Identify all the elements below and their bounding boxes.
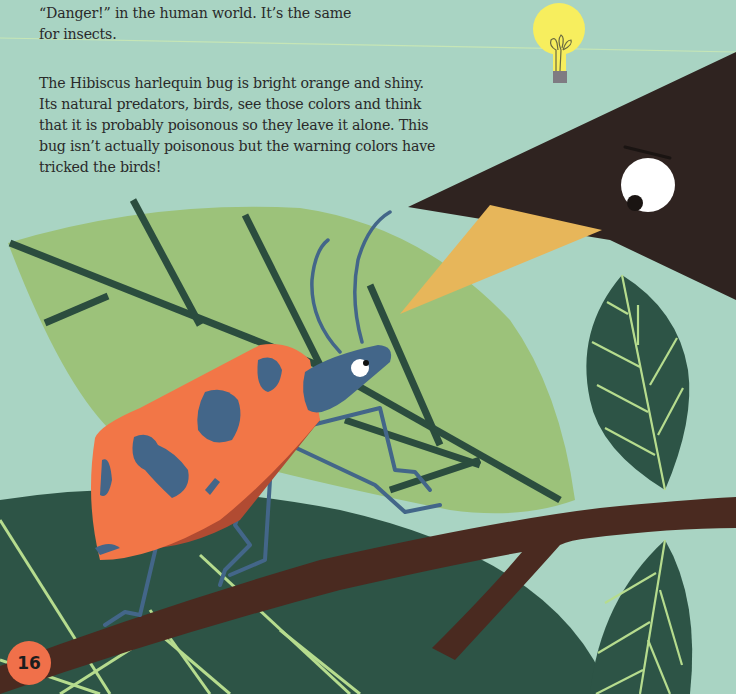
body-line: bug isn’t actually poisonous but the war… xyxy=(39,136,509,157)
leaf-right-lower xyxy=(590,540,692,694)
book-page: “Danger!” in the human world. It’s the s… xyxy=(0,0,736,694)
page-number-badge: 16 xyxy=(7,641,51,685)
intro-line: “Danger!” in the human world. It’s the s… xyxy=(39,3,379,24)
intro-line: for insects. xyxy=(39,24,379,45)
bird-pupil xyxy=(627,195,643,211)
bug-pupil xyxy=(363,360,369,366)
lightbulb-icon xyxy=(533,3,585,83)
body-line: that it is probably poisonous so they le… xyxy=(39,115,509,136)
body-line: The Hibiscus harlequin bug is bright ora… xyxy=(39,73,509,94)
leaf-right-upper xyxy=(586,275,689,490)
intro-paragraph: “Danger!” in the human world. It’s the s… xyxy=(39,3,379,45)
body-line: tricked the birds! xyxy=(39,157,509,178)
body-paragraph: The Hibiscus harlequin bug is bright ora… xyxy=(39,73,509,178)
body-line: Its natural predators, birds, see those … xyxy=(39,94,509,115)
